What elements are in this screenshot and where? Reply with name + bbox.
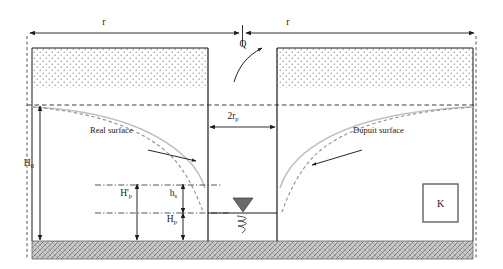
dupuit-surface-curve-left [32,107,205,188]
dupuit-surface-pointer [312,150,362,165]
seepage-head-dimension-group: H'p [120,184,137,240]
unsaturated-zone-right [277,48,473,88]
well-diameter-dimension-group: 2rp [210,111,275,127]
radius-dimension-group: r r [30,16,474,46]
well-head-label: Hp [167,214,178,225]
real-surface-label: Real surface [90,125,133,135]
bedrock-layer [32,241,473,259]
well-water-level-group [208,198,277,233]
discharge-arrow-icon [234,48,262,82]
discharge-arrow-group: Q [234,39,262,82]
conductivity-box: K [423,184,458,222]
dupuit-surface-annotation: Dupuit surface [312,125,404,165]
radius-label-left: r [102,16,106,27]
discharge-label: Q [240,39,247,49]
seepage-face-dimension-group: hs [170,184,183,213]
real-surface-curve-left [32,107,203,212]
radius-label-right: r [286,16,290,27]
water-squiggle-icon [237,216,246,233]
total-head-label: H0 [24,158,35,169]
seepage-face-label: hs [170,188,178,199]
real-surface-pointer [148,150,196,161]
seepage-head-label: H'p [120,188,133,199]
well-drawdown-diagram: r r Q 2rp Real surface Dupuit surface H0 [0,0,503,269]
dupuit-surface-curve-right [280,107,473,188]
dupuit-surface-label: Dupuit surface [353,125,404,135]
unsaturated-zone-left [32,48,208,88]
well-diameter-label: 2rp [227,111,239,122]
water-table-triangle-icon [233,198,253,212]
diagram-canvas: r r Q 2rp Real surface Dupuit surface H0 [0,0,503,269]
conductivity-label: K [437,198,445,209]
well-head-dimension-group: Hp [167,213,183,240]
